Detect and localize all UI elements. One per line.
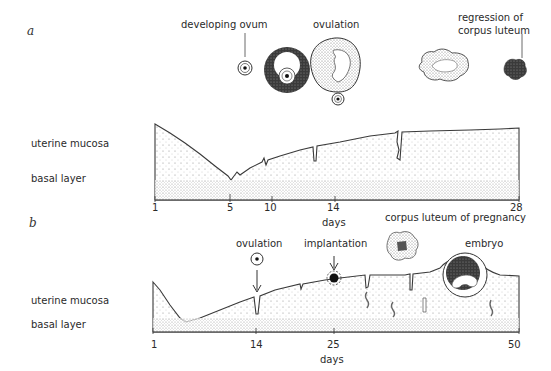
label-implantation: implantation bbox=[304, 238, 367, 249]
label-uterine-mucosa-a: uterine mucosa bbox=[31, 138, 109, 149]
label-corpus-luteum-pregnancy: corpus luteum of pregnancy bbox=[385, 212, 526, 223]
label-basal-layer-b: basal layer bbox=[31, 319, 86, 330]
xlabel-a-days: days bbox=[322, 217, 346, 228]
panel-a-letter: a bbox=[27, 24, 34, 38]
panel-a-mucosa-profile bbox=[155, 124, 519, 202]
implantation-arrow-icon bbox=[330, 256, 338, 270]
label-ovulation-a: ovulation bbox=[313, 19, 359, 30]
tick-a-1: 1 bbox=[152, 202, 158, 213]
label-embryo: embryo bbox=[465, 238, 503, 249]
ovulation-ovum-icon bbox=[251, 253, 263, 265]
tick-a-5: 5 bbox=[227, 202, 233, 213]
ovulation-arrow-icon bbox=[253, 270, 261, 292]
label-regression-line1: regression of bbox=[458, 12, 523, 23]
regressed-corpus-luteum-icon bbox=[504, 34, 526, 80]
label-developing-ovum: developing ovum bbox=[181, 19, 268, 30]
developing-ovum-icon bbox=[238, 33, 252, 75]
tick-a-14: 14 bbox=[327, 202, 340, 213]
tick-b-1: 1 bbox=[151, 339, 157, 350]
panel-b-letter: b bbox=[29, 216, 37, 230]
tick-b-50: 50 bbox=[508, 339, 521, 350]
tick-b-25: 25 bbox=[327, 339, 340, 350]
xlabel-b-days: days bbox=[320, 354, 344, 365]
diagram-canvas bbox=[0, 0, 551, 371]
label-uterine-mucosa-b: uterine mucosa bbox=[31, 295, 109, 306]
label-basal-layer-a: basal layer bbox=[31, 173, 86, 184]
tick-b-14: 14 bbox=[250, 339, 263, 350]
embryo-icon bbox=[443, 253, 487, 297]
corpus-luteum-icon bbox=[419, 49, 468, 81]
mature-follicle-icon bbox=[264, 47, 310, 93]
label-regression-line2: corpus luteum bbox=[458, 25, 530, 36]
corpus-luteum-pregnancy-icon bbox=[387, 232, 418, 261]
label-ovulation-b: ovulation bbox=[236, 238, 282, 249]
tick-a-10: 10 bbox=[264, 202, 277, 213]
ruptured-follicle-icon bbox=[311, 38, 361, 105]
